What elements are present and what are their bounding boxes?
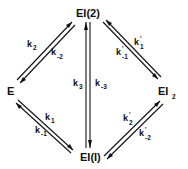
- rate-k1p-sub: 1: [140, 43, 144, 50]
- edge-e-ei2: [17, 22, 75, 83]
- label-k2-prime: k ' 2: [123, 111, 133, 126]
- label-k1-prime: k ' 1: [134, 35, 144, 50]
- label-k-minus-2: k -2: [51, 47, 63, 60]
- rate-km1p-sub: -1: [122, 53, 128, 60]
- rate-km1-sub: -1: [41, 130, 47, 137]
- rate-km1p-prime: ': [122, 45, 124, 52]
- label-k2: k 2: [27, 39, 37, 51]
- forward-arrow-line: [17, 22, 72, 80]
- label-k1: k 1: [45, 112, 55, 124]
- arrowhead-icon: [84, 22, 88, 30]
- label-k-minus-3: k -3: [95, 78, 107, 90]
- rate-k3-sub: 3: [79, 83, 83, 90]
- rate-km2p-prime: ': [145, 126, 147, 133]
- rate-k1-sub: 1: [51, 117, 55, 124]
- forward-arrow-line: [103, 22, 158, 79]
- reverse-arrow-line: [106, 20, 161, 77]
- node-ei2-right-sub: 2: [172, 93, 176, 100]
- label-k-minus-1: k -1: [35, 125, 47, 137]
- node-ei2-right: EI 2: [158, 85, 176, 100]
- reverse-arrow-line: [16, 103, 71, 153]
- edge-ei2-ei2right: [103, 20, 161, 79]
- edge-ei1-ei2right: [104, 101, 163, 159]
- node-ei1-bottom: EI(I): [80, 151, 101, 163]
- reaction-scheme-diagram: EI(2) E EI 2 EI(I) k 2 k -2 k ' 1 k ' -1: [0, 0, 188, 169]
- label-k3: k 3: [73, 78, 83, 90]
- edge-ei1-ei2: [84, 22, 92, 148]
- rate-km2-sub: -2: [57, 53, 63, 60]
- reverse-arrow-line: [20, 25, 75, 83]
- forward-arrow-line: [18, 100, 73, 150]
- reverse-arrow-line: [107, 104, 163, 159]
- forward-arrow-line: [104, 101, 160, 156]
- rate-km2p-sub: -2: [145, 134, 151, 141]
- rate-k2p-prime: ': [129, 111, 131, 118]
- rate-k2-sub: 2: [33, 44, 37, 51]
- rate-km3-sub: -3: [101, 83, 107, 90]
- node-ei2-right-base: EI: [158, 85, 168, 97]
- arrowhead-icon: [88, 140, 92, 148]
- rate-k1p-prime: ': [140, 35, 142, 42]
- node-e: E: [7, 85, 14, 97]
- edge-e-ei1: [16, 100, 73, 153]
- node-ei2-top: EI(2): [76, 7, 100, 19]
- rate-k2p-sub: 2: [129, 119, 133, 126]
- label-k-minus-2-prime: k ' -2: [139, 126, 151, 141]
- label-k-minus-1-prime: k ' -1: [116, 45, 128, 60]
